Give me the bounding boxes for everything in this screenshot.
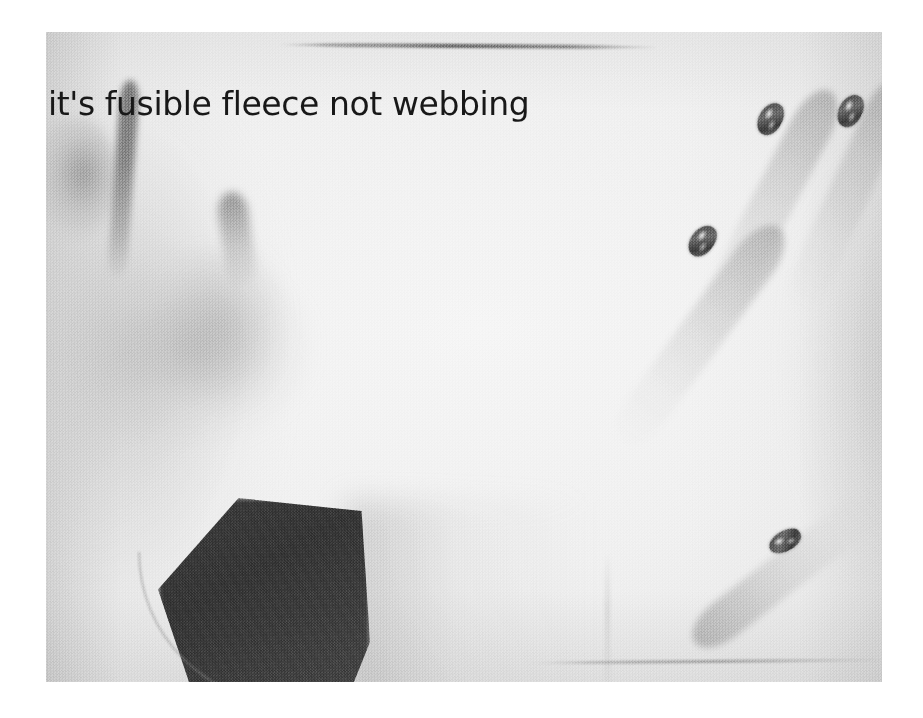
video-caption: it's fusible fleece not webbing (48, 87, 529, 120)
page-canvas: it's fusible fleece not webbing (0, 0, 923, 718)
fleece-fold-line (606, 552, 609, 682)
left-hand-shadow (166, 252, 296, 422)
left-hand-thumb-tip (46, 118, 116, 238)
sleeve-cast-shadow (346, 502, 586, 682)
photo-frame: it's fusible fleece not webbing (46, 32, 882, 682)
